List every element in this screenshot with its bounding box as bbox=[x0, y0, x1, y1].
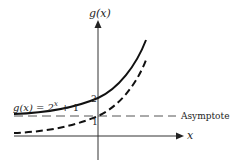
y-axis-label: g(x) bbox=[89, 7, 111, 20]
equation-label: g(x) = 2x + 1 bbox=[13, 100, 79, 113]
exponential-graph: g(x) x Asymptote 2 1 g(x) = 2x + 1 bbox=[0, 0, 240, 164]
x-axis-label: x bbox=[187, 129, 194, 142]
x-axis-arrow-icon bbox=[176, 133, 184, 140]
y-axis-arrow-icon bbox=[95, 20, 102, 28]
equation-suffix: + 1 bbox=[58, 102, 79, 113]
tick-label-1: 1 bbox=[92, 117, 98, 127]
asymptote-label: Asymptote bbox=[180, 111, 229, 121]
tick-label-2: 2 bbox=[91, 94, 97, 104]
curve-2x bbox=[14, 60, 146, 133]
equation-prefix: g(x) = 2 bbox=[13, 102, 54, 113]
